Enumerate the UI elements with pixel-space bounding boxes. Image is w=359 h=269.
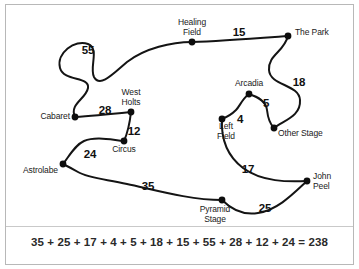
node-dot-pyramid-stage[interactable]	[219, 197, 226, 204]
node-label-the-park: The Park	[295, 28, 329, 38]
edge-weight-e-westholts-cabaret: 28	[99, 104, 111, 116]
total-distance-equation: 35 + 25 + 17 + 4 + 5 + 18 + 15 + 55 + 28…	[0, 236, 359, 248]
node-dot-cabaret[interactable]	[72, 114, 79, 121]
node-dot-arcadia[interactable]	[246, 91, 253, 98]
edge-weight-e-cabaret-healing: 55	[82, 44, 94, 56]
edge-e-arcadia-otherstage	[249, 94, 274, 128]
node-label-other-stage: Other Stage	[278, 129, 323, 139]
edge-weight-e-astrolabe-circus: 24	[84, 148, 96, 160]
diagram-page: 55151854172535241228Healing FieldThe Par…	[0, 0, 359, 269]
edge-weight-e-healing-park: 15	[233, 26, 245, 38]
node-dot-the-park[interactable]	[285, 33, 292, 40]
node-label-astrolabe: Astrolabe	[23, 166, 58, 176]
node-label-left-field: Left Field	[217, 122, 235, 141]
edge-e-arcadia-leftfield	[222, 94, 249, 119]
edge-weight-e-arcadia-otherstage: 5	[263, 97, 269, 109]
edge-weight-e-arcadia-leftfield: 4	[237, 113, 243, 125]
node-dot-astrolabe[interactable]	[60, 161, 67, 168]
node-label-circus: Circus	[112, 145, 136, 155]
edge-weight-e-park-otherstage: 18	[293, 76, 305, 88]
edge-weight-e-leftfield-johnpeel: 17	[242, 163, 254, 175]
node-dot-other-stage[interactable]	[271, 125, 278, 132]
node-label-healing-field: Healing Field	[178, 18, 206, 37]
node-label-cabaret: Cabaret	[40, 112, 70, 122]
node-label-arcadia: Arcadia	[235, 79, 263, 89]
node-dot-healing-field[interactable]	[189, 39, 196, 46]
edges-group	[59, 36, 307, 214]
separator-line	[6, 226, 353, 227]
node-dot-john-peel[interactable]	[304, 178, 311, 185]
node-label-west-holts: West Holts	[122, 88, 141, 107]
edge-weight-e-pyramid-astrolabe: 35	[142, 180, 154, 192]
node-label-john-peel: John Peel	[313, 172, 331, 191]
node-dot-west-holts[interactable]	[128, 109, 135, 116]
edge-weight-e-circus-westholts: 12	[128, 125, 140, 137]
edge-weight-e-johnpeel-pyramid: 25	[259, 202, 271, 214]
node-label-pyramid-stage: Pyramid Stage	[200, 205, 230, 224]
